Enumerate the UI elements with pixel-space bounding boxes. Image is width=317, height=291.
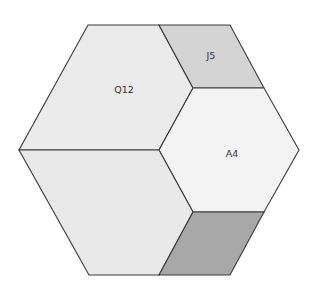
- region-bottom-left: [19, 150, 193, 275]
- label-a4: A4: [226, 148, 239, 159]
- label-q12: Q12: [114, 84, 134, 95]
- label-j5: J5: [206, 50, 216, 61]
- hexagon-diagram: Q12 J5 A4: [0, 0, 317, 291]
- region-q12: [19, 25, 193, 150]
